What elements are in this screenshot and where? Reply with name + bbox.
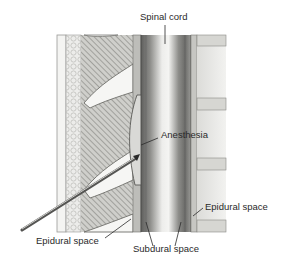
label-epidural-space-left: Epidural space [36, 236, 99, 246]
spine-illustration [0, 0, 290, 269]
label-anesthesia: Anesthesia [161, 130, 208, 140]
label-spinal-cord: Spinal cord [140, 12, 188, 22]
label-subdural-space: Subdural space [133, 244, 199, 254]
ligament-hatched [81, 35, 133, 232]
label-epidural-space-right: Epidural space [205, 202, 268, 212]
diagram: Spinal cord Anesthesia Epidural space Ep… [0, 0, 290, 269]
posterior-tissue [57, 35, 81, 232]
